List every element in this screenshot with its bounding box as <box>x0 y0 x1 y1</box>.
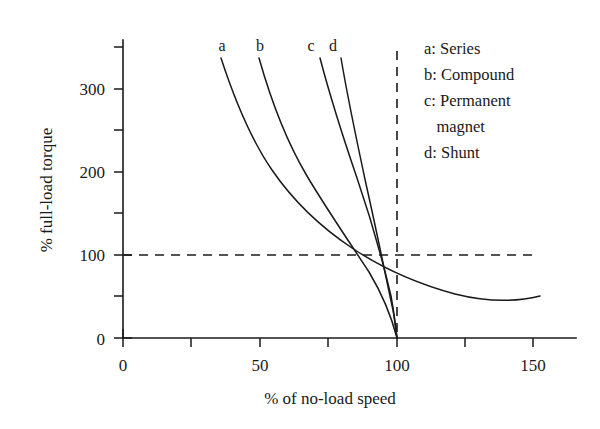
y-tick-label-300: 300 <box>80 80 106 99</box>
legend-item-a: a: Series <box>424 39 480 58</box>
curve-c-permanent-magnet <box>320 58 397 338</box>
curve-d-shunt <box>341 58 397 338</box>
axes-group <box>123 40 576 338</box>
legend-item-d: d: Shunt <box>424 143 480 162</box>
curve-label-c: c <box>307 37 314 54</box>
x-tick-label-0: 0 <box>119 356 128 375</box>
curve-label-b: b <box>256 37 264 54</box>
motor-torque-speed-chart: 300 200 100 0 0 50 100 150 % of no-load … <box>0 0 600 429</box>
y-axis-title: % full-load torque <box>37 128 56 253</box>
legend-item-c-cont: magnet <box>424 117 485 136</box>
curve-label-d: d <box>329 37 337 54</box>
legend-item-b: b: Compound <box>424 65 515 84</box>
x-tick-label-50: 50 <box>252 356 269 375</box>
curve-b-compound <box>259 58 397 338</box>
curve-label-a: a <box>218 37 225 54</box>
x-axis-title: % of no-load speed <box>264 389 396 408</box>
legend: a: Series b: Compound c: Permanent magne… <box>424 39 515 162</box>
y-tick-label-100: 100 <box>80 246 106 265</box>
y-tick-label-0: 0 <box>97 330 106 349</box>
chart-figure: 300 200 100 0 0 50 100 150 % of no-load … <box>0 0 600 429</box>
y-tick-label-200: 200 <box>80 163 106 182</box>
x-tick-label-150: 150 <box>520 356 546 375</box>
x-tick-label-100: 100 <box>384 356 410 375</box>
legend-item-c: c: Permanent <box>424 91 511 110</box>
